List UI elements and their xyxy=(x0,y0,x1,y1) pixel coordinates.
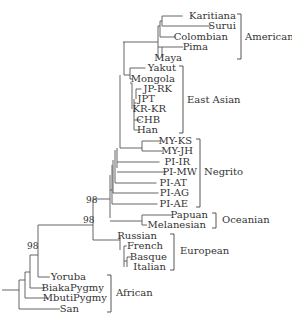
group-bracket xyxy=(237,14,241,59)
group-label: American xyxy=(244,31,292,42)
group-bracket xyxy=(107,275,111,312)
leaf-label: MY-JH xyxy=(161,145,193,156)
bootstrap-value: 98 xyxy=(86,195,98,205)
bootstrap-value: 98 xyxy=(27,241,39,251)
leaf-label: Surui xyxy=(208,20,236,31)
leaf-label: Italian xyxy=(133,261,166,272)
group-label: East Asian xyxy=(187,94,241,105)
leaf-label: Yoruba xyxy=(50,271,86,282)
group-bracket xyxy=(170,234,174,270)
leaf-label: Melanesian xyxy=(148,219,207,230)
bootstrap-values: 989898 xyxy=(27,195,98,251)
leaf-label: Pima xyxy=(183,41,208,52)
group-bracket xyxy=(179,66,183,133)
tree-canvas: KaritianaSuruiColombianPimaMayaYakutMong… xyxy=(0,0,292,323)
leaf-label: PI-AE xyxy=(159,198,188,209)
group-label: European xyxy=(180,245,230,256)
group-label: Oceanian xyxy=(222,214,270,225)
group-label: African xyxy=(115,287,153,298)
leaf-label: French xyxy=(127,240,164,251)
group-label: Negrito xyxy=(204,166,243,177)
leaf-label: PI-AG xyxy=(160,187,189,198)
leaf-label: Yakut xyxy=(147,62,176,73)
phylogenetic-tree-figure: KaritianaSuruiColombianPimaMayaYakutMong… xyxy=(0,0,292,323)
group-bracket xyxy=(212,213,216,228)
bootstrap-value: 98 xyxy=(83,215,95,225)
leaf-label: San xyxy=(60,303,80,314)
leaf-label: Han xyxy=(137,124,159,135)
leaf-label: PI-MW xyxy=(162,166,197,177)
leaf-label: KR-KR xyxy=(133,103,167,114)
leaf-label: MbutiPygmy xyxy=(43,292,108,303)
